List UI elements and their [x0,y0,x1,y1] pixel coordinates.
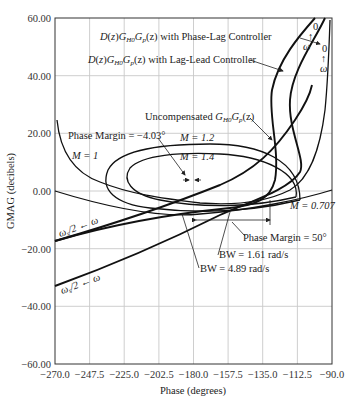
bw-161-label: BW = 1.61 rad/s [219,249,288,260]
nichols-chart: 60.00 40.00 20.00 0.00 −20.00 −40.00 −60… [0,0,355,403]
m0707-label: M = 0.707 [289,200,335,211]
m1-label: M = 1 [71,150,98,161]
omega-label-2: ω [320,63,327,74]
y-axis-label: GMAG (decibels) [5,152,17,229]
phase-margin-50-label: Phase Margin = 50° [243,232,327,243]
y-tick: 60.00 [27,13,51,24]
x-tick: −112.5 [283,369,312,380]
y-tick: 0.00 [33,186,51,197]
x-tick: −90.0 [320,369,344,380]
x-tick: −270.0 [40,369,70,380]
zero-label-1: 0 [313,21,318,32]
omega-label-1: ω [303,41,310,52]
ws2-label-lower: ωs/2 ← ω [59,271,102,297]
x-tick: −202.5 [144,369,174,380]
lag-lead-label: D(z)GH0Gp(z) with Lag-Lead Controller [87,54,257,67]
phase-lag-label: D(z)GH0Gp(z) with Phase-Lag Controller [99,31,272,44]
grid-lines [55,18,332,364]
x-tick: −135.0 [248,369,278,380]
x-axis-ticks: −270.0 −247.5 −225.0 −202.5 −180.0 −157.… [40,369,344,380]
y-axis-ticks: 60.00 40.00 20.00 0.00 −20.00 −40.00 −60… [21,13,51,370]
x-tick: −157.5 [213,369,243,380]
uncompensated-label: Uncompensated GH0Gp(z) [145,111,255,124]
m12-label: M = 1.2 [179,132,215,143]
x-tick: −225.0 [109,369,139,380]
y-tick: 20.00 [27,128,51,139]
x-tick: −180.0 [179,369,209,380]
bw-489-label: BW = 4.89 rad/s [200,263,269,274]
ws2-label-upper: ωs/2 ← ω [57,214,100,240]
y-tick: 40.00 [27,71,51,82]
m14-label: M = 1.4 [179,151,215,162]
x-tick: −247.5 [75,369,105,380]
x-axis-label: Phase (degrees) [160,385,227,397]
y-tick: −40.00 [21,301,51,312]
annotations: D(z)GH0Gp(z) with Phase-Lag Controller D… [57,21,336,298]
y-tick: −20.00 [21,244,51,255]
phase-margin-neg-label: Phase Margin = −4.03° [68,130,166,141]
